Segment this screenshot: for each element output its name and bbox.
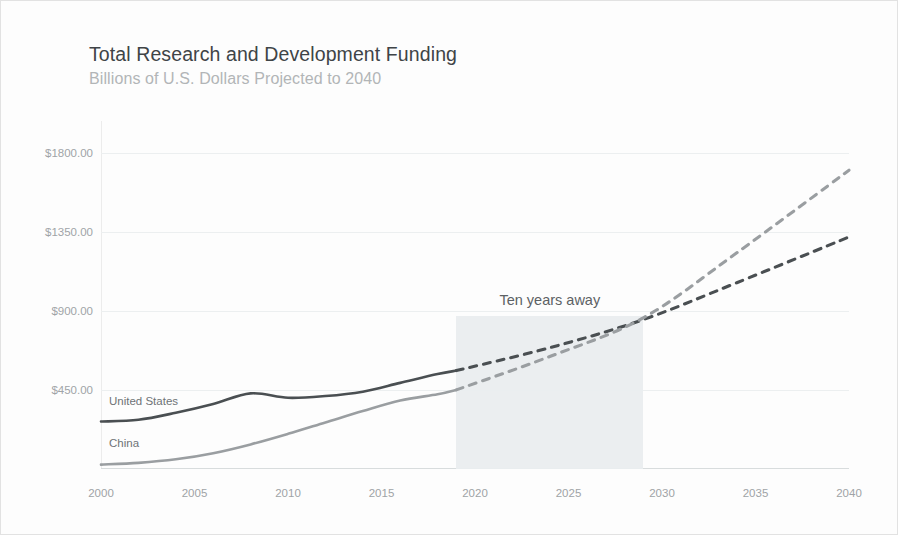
series-label-china: China — [109, 437, 139, 449]
chart-page: Total Research and Development Funding B… — [0, 0, 898, 535]
series-path-united-states-projected — [456, 237, 849, 371]
series-lines — [1, 1, 898, 535]
series-label-united-states: United States — [109, 395, 178, 407]
